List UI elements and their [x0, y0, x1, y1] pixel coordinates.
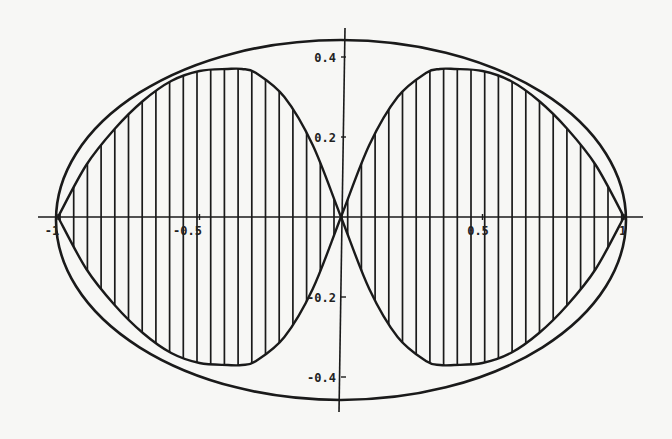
y-tick-label: -0.4: [307, 371, 336, 385]
x-tick-label: 0.5: [467, 224, 489, 238]
y-tick-label: -0.2: [307, 291, 336, 305]
y-tick-label: 0.2: [314, 131, 336, 145]
y-tick-label: 0.4: [314, 51, 336, 65]
x-tick-label: -1: [45, 224, 59, 238]
x-tick-label: -0.5: [173, 224, 202, 238]
chart-plot: -1-0.50.51 0.40.2-0.2-0.4: [0, 0, 672, 439]
x-tick-label: 1: [619, 224, 626, 238]
